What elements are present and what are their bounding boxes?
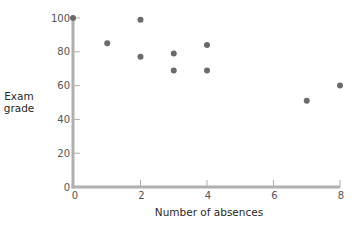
data-point [138, 17, 144, 23]
y-tick-label: 0 [64, 182, 70, 193]
x-axis-ticks: 02468 [72, 180, 344, 201]
data-point [337, 83, 343, 89]
y-tick-label: 20 [57, 148, 70, 159]
x-tick-label: 6 [271, 190, 277, 201]
data-points [70, 15, 343, 104]
y-tick-label: 40 [57, 114, 70, 125]
y-tick-label: 80 [57, 46, 70, 57]
data-point [304, 98, 310, 104]
y-axis-title: Exam [4, 90, 34, 102]
y-tick-label: 100 [51, 13, 70, 24]
data-point [171, 50, 177, 56]
x-tick-label: 8 [338, 190, 344, 201]
y-axis-title-line2: grade [4, 102, 35, 114]
x-axis-title: Number of absences [155, 206, 263, 218]
x-tick-label: 0 [72, 190, 78, 201]
data-point [171, 67, 177, 73]
y-axis-ticks: 020406080100 [51, 13, 80, 193]
x-tick-label: 2 [138, 190, 144, 201]
data-point [204, 42, 210, 48]
scatter-chart: 020406080100 02468 Exam grade Number of … [0, 0, 363, 229]
data-point [204, 67, 210, 73]
y-tick-label: 60 [57, 80, 70, 91]
data-point [70, 15, 76, 21]
data-point [138, 54, 144, 60]
x-tick-label: 4 [205, 190, 211, 201]
data-point [104, 40, 110, 46]
